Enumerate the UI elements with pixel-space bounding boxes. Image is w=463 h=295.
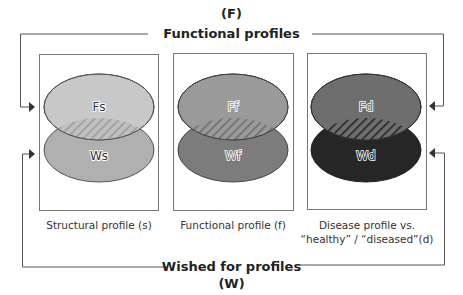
caption-functional: Functional profile (f) — [163, 218, 303, 232]
diagram-canvas: Fs Ws Ff Wf Fd Wd — [0, 0, 463, 295]
disease-venn: Fd Wd — [311, 74, 421, 182]
arrow-left-icon — [429, 101, 435, 111]
functional-profiles-letter: (F) — [0, 6, 463, 21]
arrow-right-icon — [29, 149, 35, 159]
ws-label: Ws — [90, 149, 108, 163]
arrow-right-icon — [29, 102, 35, 112]
fs-label: Fs — [92, 100, 105, 114]
structural-venn: Fs Ws — [44, 74, 154, 182]
caption-disease-line2: “healthy” / “diseased”(d) — [297, 232, 437, 246]
caption-structural: Structural profile (s) — [30, 218, 168, 232]
wd-label: Wd — [356, 149, 375, 163]
wf-label: Wf — [225, 149, 242, 163]
functional-profiles-title: Functional profiles — [0, 26, 463, 41]
caption-disease-line1: Disease profile vs. — [297, 218, 437, 232]
functional-venn: Ff Wf — [178, 74, 288, 182]
fd-label: Fd — [359, 100, 374, 114]
arrow-left-icon — [429, 148, 435, 158]
ff-label: Ff — [227, 100, 239, 114]
wished-profiles-title: Wished for profiles — [0, 259, 463, 274]
wished-profiles-letter: (W) — [0, 276, 463, 291]
